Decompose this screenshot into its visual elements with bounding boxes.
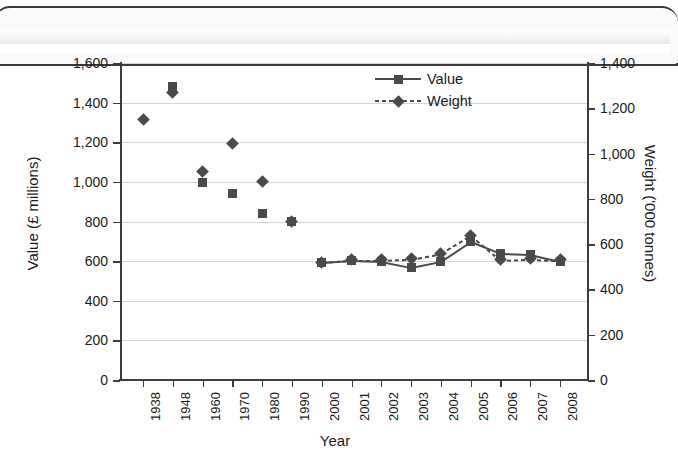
axis-tick-label: 800 — [85, 215, 108, 229]
axis-tick — [588, 154, 595, 156]
axis-tick — [113, 380, 120, 382]
axis-tick-label: 1,000 — [73, 175, 108, 189]
axis-tick — [560, 380, 561, 387]
axis-tick — [113, 63, 120, 65]
x-axis-tick-label: 2003 — [416, 392, 431, 421]
square-marker-icon — [394, 75, 403, 84]
data-point-weight — [226, 137, 239, 150]
axis-tick-label: 600 — [85, 254, 108, 268]
axis-tick-label: 1,600 — [73, 56, 108, 70]
data-point-weight — [256, 176, 269, 189]
axis-tick — [113, 103, 120, 105]
axis-tick — [500, 380, 501, 387]
axis-tick-label: 400 — [85, 294, 108, 308]
axis-tick — [173, 380, 174, 387]
axis-tick-label: 600 — [600, 237, 623, 251]
x-axis-tick-label: 2001 — [357, 392, 372, 421]
x-axis-tick-label: 1948 — [178, 392, 193, 421]
x-axis-tick-label: 2006 — [505, 392, 520, 421]
axis-tick-label: 200 — [85, 333, 108, 347]
x-axis-tick-label: 1980 — [267, 392, 282, 421]
axis-tick — [113, 340, 120, 342]
axis-tick-label: 800 — [600, 192, 623, 206]
x-axis-tick-label: 1938 — [148, 392, 163, 421]
data-point-weight — [196, 165, 209, 178]
x-axis-tick-label: 2002 — [386, 392, 401, 421]
axis-tick — [292, 380, 293, 387]
axis-tick — [588, 289, 595, 291]
axis-tick — [411, 380, 412, 387]
x-axis-tick-label: 2005 — [476, 392, 491, 421]
axis-tick — [588, 199, 595, 201]
axis-tick — [113, 142, 120, 144]
legend-label-weight: Weight — [427, 93, 472, 109]
axis-tick — [381, 380, 382, 387]
axis-tick — [352, 380, 353, 387]
axis-tick — [588, 335, 595, 337]
legend-item-weight: Weight — [375, 90, 472, 112]
axis-tick-label: 400 — [600, 282, 623, 296]
axis-tick — [113, 182, 120, 184]
axis-tick-label: 1,400 — [73, 96, 108, 110]
axis-tick — [262, 380, 263, 387]
axis-tick — [588, 108, 595, 110]
axis-tick-label: 200 — [600, 328, 623, 342]
data-point-value — [258, 209, 267, 218]
legend-swatch-weight — [375, 96, 421, 106]
data-point-value — [198, 178, 207, 187]
legend-label-value: Value — [427, 71, 463, 87]
axis-tick — [143, 380, 144, 387]
chart-legend: Value Weight — [375, 68, 472, 112]
y-axis-left-title: Value (£ millions) — [24, 104, 41, 324]
x-axis-tick-label: 1990 — [297, 392, 312, 421]
legend-item-value: Value — [375, 68, 472, 90]
axis-tick — [471, 380, 472, 387]
data-point-value — [228, 189, 237, 198]
diamond-marker-icon — [392, 95, 405, 108]
x-axis-title: Year — [0, 432, 670, 449]
axis-tick-label: 1,200 — [600, 101, 635, 115]
axis-tick — [113, 301, 120, 303]
axis-tick — [530, 380, 531, 387]
axis-tick — [588, 380, 595, 382]
legend-swatch-value — [375, 74, 421, 84]
axis-tick-label: 1,000 — [600, 147, 635, 161]
axis-tick — [232, 380, 233, 387]
x-axis-tick-label: 2007 — [535, 392, 550, 421]
x-axis-tick-label: 2004 — [446, 392, 461, 421]
axis-tick — [203, 380, 204, 387]
axis-tick-label: 0 — [600, 373, 608, 387]
axis-tick-label: 1,200 — [73, 135, 108, 149]
axis-tick-label: 1,400 — [600, 56, 635, 70]
x-axis-tick-label: 2008 — [565, 392, 580, 421]
data-point-weight — [137, 113, 150, 126]
axis-tick — [441, 380, 442, 387]
axis-tick — [588, 63, 595, 65]
axis-tick — [588, 244, 595, 246]
axis-tick-label: 0 — [100, 373, 108, 387]
plot-area — [120, 63, 588, 380]
axis-tick — [113, 222, 120, 224]
y-axis-right-title: Weight ('000 tonnes) — [642, 104, 659, 324]
axis-tick — [113, 261, 120, 263]
x-axis-tick-label: 1970 — [237, 392, 252, 421]
axis-tick — [322, 380, 323, 387]
x-axis-tick-label: 2000 — [327, 392, 342, 421]
x-axis-tick-label: 1960 — [208, 392, 223, 421]
